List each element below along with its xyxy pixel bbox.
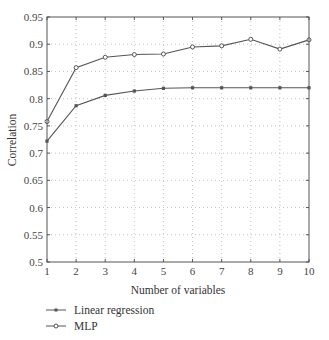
y-axis-ticks: 0.50.550.60.650.70.750.80.850.90.95 <box>24 11 309 268</box>
x-axis-ticks: 12345678910 <box>44 17 315 277</box>
y-tick-label: 0.55 <box>24 229 44 241</box>
x-tick-label: 5 <box>161 265 167 277</box>
y-tick-label: 0.95 <box>24 11 44 23</box>
x-tick-label: 7 <box>219 265 225 277</box>
y-tick-label: 0.8 <box>29 93 43 105</box>
legend: Linear regression MLP <box>46 302 154 334</box>
x-tick-label: 2 <box>73 265 79 277</box>
y-tick-label: 0.9 <box>29 38 43 50</box>
x-tick-label: 6 <box>190 265 196 277</box>
y-tick-label: 0.65 <box>24 174 44 186</box>
y-tick-label: 0.7 <box>29 147 43 159</box>
circle-marker-icon <box>46 321 66 331</box>
y-tick-label: 0.75 <box>24 120 44 132</box>
x-tick-label: 3 <box>102 265 108 277</box>
data-series <box>45 37 311 142</box>
grid-lines <box>47 17 309 262</box>
y-axis-label: Correlation <box>6 114 18 167</box>
x-tick-label: 9 <box>277 265 283 277</box>
x-tick-label: 1 <box>44 265 50 277</box>
legend-item-mlp: MLP <box>46 318 154 334</box>
legend-label: MLP <box>74 320 98 332</box>
y-tick-label: 0.85 <box>24 65 44 77</box>
x-axis-label: Number of variables <box>131 284 226 296</box>
x-tick-label: 4 <box>132 265 138 277</box>
square-marker-icon <box>46 305 66 315</box>
legend-item-linear-regression: Linear regression <box>46 302 154 318</box>
line-chart: 0.50.550.60.650.70.750.80.850.90.95 1234… <box>0 0 329 300</box>
y-tick-label: 0.6 <box>29 202 43 214</box>
x-tick-label: 8 <box>248 265 254 277</box>
x-tick-label: 10 <box>304 265 316 277</box>
plot-frame <box>47 17 309 262</box>
y-tick-label: 0.5 <box>29 256 43 268</box>
legend-label: Linear regression <box>74 304 154 316</box>
